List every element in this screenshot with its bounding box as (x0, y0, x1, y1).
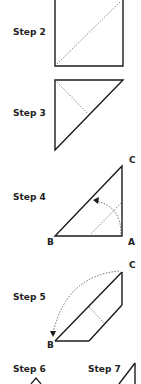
point-b-label: B (47, 341, 54, 350)
step-3-label: Step 3 (13, 109, 46, 118)
step-4-triangle (55, 166, 122, 236)
step-6-shape (31, 378, 41, 384)
point-a-label: A (128, 238, 135, 247)
step-7-label: Step 7 (88, 365, 121, 374)
step-5-shape (50, 271, 122, 341)
point-c-label: C (129, 156, 136, 165)
step-3-triangle (55, 80, 123, 150)
step-7-shape (119, 363, 135, 384)
fold-arrow-icon (93, 197, 99, 204)
fold-arrow-icon (50, 331, 56, 337)
step-2-square (55, 0, 123, 66)
step-5-label: Step 5 (13, 293, 46, 302)
step-4-label: Step 4 (13, 193, 46, 202)
step-6-label: Step 6 (13, 365, 46, 374)
point-c-label: C (129, 261, 136, 270)
step-2-label: Step 2 (13, 28, 46, 37)
point-b-label: B (47, 238, 54, 247)
